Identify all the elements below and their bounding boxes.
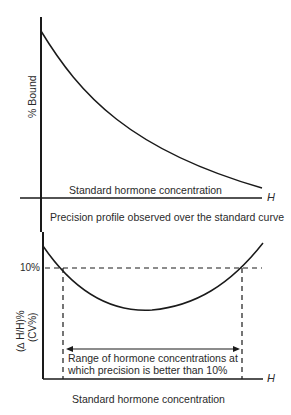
bottom-y-axis-label-line2: (CV%) (27, 313, 38, 342)
top-x-axis-symbol: H (267, 191, 275, 203)
range-annotation-line1: Range of hormone concentrations at (68, 352, 238, 364)
bottom-y-axis-label-line1: (∆ H/H)% (15, 310, 26, 352)
bottom-x-axis-symbol: H (267, 372, 275, 384)
threshold-label: 10% (20, 262, 40, 273)
bottom-x-axis-label: Standard hormone concentration (72, 393, 225, 405)
precision-profile-curve (43, 243, 263, 310)
range-annotation-line2: which precision is better than 10% (68, 364, 227, 376)
middle-caption: Precision profile observed over the stan… (50, 211, 284, 223)
standard-curve (41, 31, 262, 188)
top-x-axis-label: Standard hormone concentration (69, 184, 222, 196)
top-y-axis-label: % Bound (26, 75, 38, 118)
